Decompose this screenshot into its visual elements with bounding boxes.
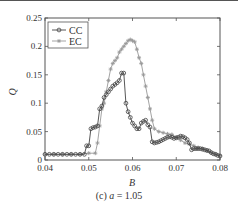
figure-caption: (c) a = 1.05 xyxy=(0,190,238,201)
y-tick-label: 0.2 xyxy=(31,41,42,51)
legend-label: CC xyxy=(69,25,83,36)
legend-label: EC xyxy=(69,36,82,47)
x-axis-label: B xyxy=(129,177,135,188)
x-tick-label: 0.05 xyxy=(81,163,97,173)
caption-prefix: (c) xyxy=(96,190,110,201)
x-tick-label: 0.06 xyxy=(125,163,141,173)
x-tick-label: 0.08 xyxy=(212,163,228,173)
y-axis-label: Q xyxy=(7,88,18,96)
y-tick-label: 0.15 xyxy=(26,70,42,80)
line-chart: 0.040.050.060.070.0800.050.10.150.20.25 … xyxy=(0,0,238,210)
series-ec xyxy=(43,38,222,158)
y-tick-label: 0.25 xyxy=(26,13,42,23)
caption-suffix: = 1.05 xyxy=(114,190,142,201)
y-tick-label: 0.05 xyxy=(26,127,42,137)
legend: CCEC xyxy=(48,22,88,48)
y-tick-label: 0.1 xyxy=(31,98,42,108)
y-tick-label: 0 xyxy=(38,155,43,165)
series-layer xyxy=(43,38,222,158)
x-tick-label: 0.07 xyxy=(168,163,184,173)
